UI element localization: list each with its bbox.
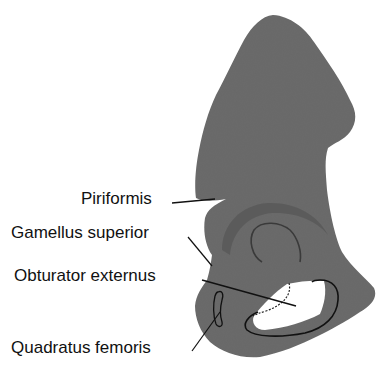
label-gamellus-superior: Gamellus superior (11, 224, 149, 241)
leader-piriformis (172, 199, 215, 203)
hip-bone-illustration (0, 0, 389, 372)
label-obturator-externus: Obturator externus (14, 267, 156, 284)
label-piriformis: Piriformis (81, 190, 152, 207)
label-quadratus-femoris: Quadratus femoris (11, 339, 151, 356)
anatomy-figure: Piriformis Gamellus superior Obturator e… (0, 0, 389, 372)
